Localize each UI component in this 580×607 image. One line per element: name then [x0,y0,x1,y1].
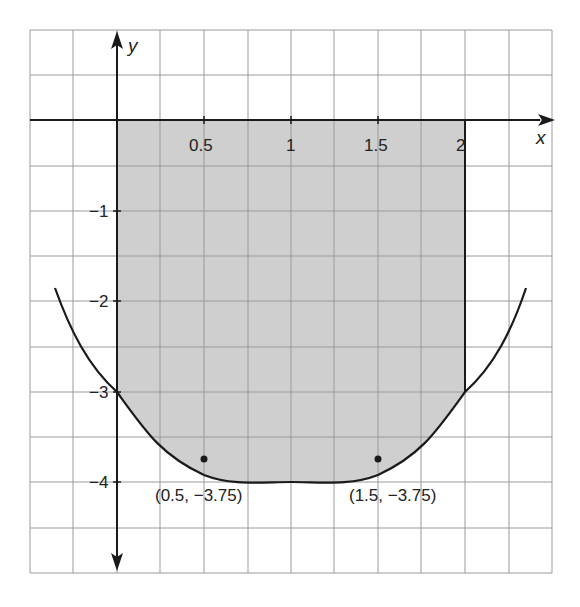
x-tick-label-0.5: 0.5 [189,137,213,154]
x-tick-label-2: 2 [456,137,465,154]
x-tick-label-1: 1 [286,137,295,154]
x-axis-label: x [536,128,546,147]
x-tick-label-1.5: 1.5 [364,137,388,154]
point-marker-a [201,456,208,463]
chart-canvas [0,0,580,607]
y-tick-label-neg4: −4 [89,474,108,491]
y-tick-label-neg2: −2 [89,293,108,310]
y-axis-label: y [128,36,138,55]
y-tick-label-neg1: −1 [89,203,108,220]
point-label-a: (0.5, −3.75) [155,487,242,504]
y-tick-label-neg3: −3 [89,384,108,401]
point-marker-b [375,456,382,463]
point-label-b: (1.5, −3.75) [349,487,436,504]
